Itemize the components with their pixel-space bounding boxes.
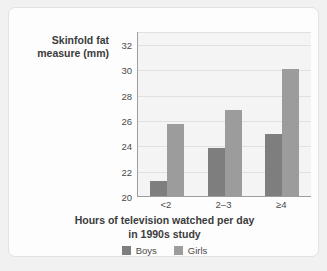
chart-legend: Boys Girls — [23, 245, 306, 256]
x-axis-title-line-2: in 1990s study — [23, 228, 306, 242]
legend-label-boys: Boys — [136, 245, 157, 256]
bar-boys — [208, 148, 225, 196]
bar-girls — [282, 69, 299, 196]
legend-label-girls: Girls — [188, 245, 208, 256]
x-axis-line — [138, 196, 311, 197]
bar-group — [138, 32, 196, 196]
y-tick-label: 24 — [121, 141, 132, 152]
bar-group — [196, 32, 254, 196]
x-tick-label: 2–3 — [216, 199, 232, 210]
y-tick-label: 30 — [121, 65, 132, 76]
y-tick-label: 32 — [121, 39, 132, 50]
y-axis-title-line-2: measure (mm) — [23, 47, 109, 60]
x-tick-label: <2 — [160, 199, 171, 210]
chart-card: Skinfold fat measure (mm) 20222426283032… — [8, 7, 319, 257]
y-tick-label: 20 — [121, 192, 132, 203]
x-axis-title-line-1: Hours of television watched per day — [23, 214, 306, 228]
y-axis-title: Skinfold fat measure (mm) — [23, 34, 109, 60]
bar-girls — [167, 124, 184, 196]
x-axis-tick-labels: <22–3≥4 — [137, 199, 311, 213]
legend-swatch-girls — [174, 246, 183, 255]
legend-swatch-boys — [122, 246, 131, 255]
y-tick-label: 22 — [121, 166, 132, 177]
legend-item-girls: Girls — [174, 245, 208, 256]
plot-area-wrapper: 20222426283032 — [113, 32, 311, 197]
bar-boys — [265, 134, 282, 196]
y-axis-title-line-1: Skinfold fat — [23, 34, 109, 47]
x-axis-title: Hours of television watched per day in 1… — [23, 214, 306, 241]
legend-item-boys: Boys — [122, 245, 157, 256]
y-tick-label: 28 — [121, 90, 132, 101]
bar-girls — [225, 110, 242, 196]
plot-area — [137, 32, 311, 197]
x-tick-label: ≥4 — [276, 199, 287, 210]
bar-group — [253, 32, 311, 196]
bar-boys — [150, 181, 167, 196]
y-tick-label: 26 — [121, 115, 132, 126]
y-axis-tick-labels: 20222426283032 — [113, 32, 137, 197]
